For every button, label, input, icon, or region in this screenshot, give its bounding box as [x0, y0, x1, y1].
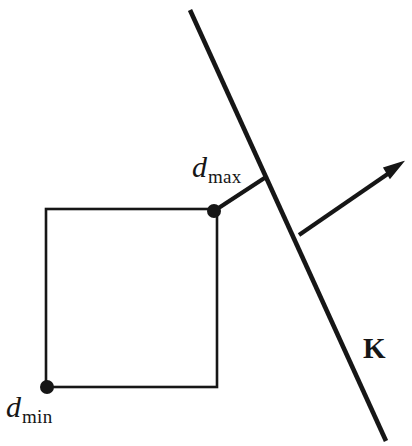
label-d-min: dmin: [6, 392, 51, 422]
label-d-max: dmax: [192, 152, 241, 182]
label-d-min-symbol: d: [6, 390, 21, 423]
boundary-line: [190, 10, 386, 441]
figure-canvas: [0, 0, 412, 446]
geometry-figure: dmax dmin K: [0, 0, 412, 446]
distance-rectangle: [46, 209, 217, 387]
k-vector-shaft: [299, 171, 392, 235]
point-dmax-marker: [207, 204, 221, 218]
label-d-min-subscript: min: [22, 406, 52, 427]
label-d-max-symbol: d: [192, 150, 207, 183]
label-d-max-subscript: max: [208, 166, 242, 187]
label-k-vector: K: [363, 334, 386, 363]
